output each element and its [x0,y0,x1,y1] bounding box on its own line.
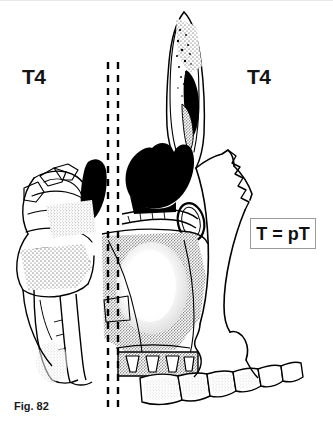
formula-text: T = pT [256,225,310,243]
figure-caption: Fig. 82 [14,400,49,412]
formula-box: T = pT [250,218,316,249]
label-t4-left: T4 [22,66,46,87]
reference-lines-group [0,0,333,433]
figure-container: T4 T4 T = pT Fig. 82 [0,0,333,433]
label-t4-right: T4 [247,66,271,87]
